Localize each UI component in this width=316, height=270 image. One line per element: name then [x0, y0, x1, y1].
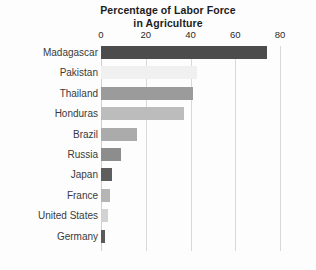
category-label-honduras: Honduras [0, 107, 98, 120]
bar-row: France [101, 189, 280, 209]
chart-title-line-1: Percentage of Labor Force [100, 4, 236, 16]
bar-thailand [101, 87, 193, 100]
bar-united-states [101, 209, 108, 222]
bar-row: Honduras [101, 107, 280, 127]
category-label-pakistan: Pakistan [0, 66, 98, 79]
gridline-80 [280, 46, 281, 251]
bar-row: United States [101, 209, 280, 229]
bar-row: Pakistan [101, 66, 280, 86]
chart-title: Percentage of Labor Force in Agriculture [60, 4, 276, 30]
category-label-thailand: Thailand [0, 87, 98, 100]
bar-france [101, 189, 110, 202]
bar-chart: Percentage of Labor Force in Agriculture… [0, 0, 316, 270]
x-tick-label-80: 80 [275, 29, 286, 40]
bar-honduras [101, 107, 184, 120]
category-label-madagascar: Madagascar [0, 46, 98, 59]
bar-row: Japan [101, 168, 280, 188]
bar-row: Thailand [101, 87, 280, 107]
bar-japan [101, 168, 112, 181]
category-label-germany: Germany [0, 230, 98, 243]
bar-germany [101, 230, 105, 243]
bar-madagascar [101, 46, 267, 59]
bar-row: Germany [101, 230, 280, 250]
plot-area: 020406080 MadagascarPakistanThailandHond… [101, 46, 280, 251]
bar-row: Brazil [101, 128, 280, 148]
category-label-russia: Russia [0, 148, 98, 161]
bar-row: Russia [101, 148, 280, 168]
x-tick-label-0: 0 [98, 29, 103, 40]
x-tick-label-40: 40 [185, 29, 196, 40]
x-tick-label-20: 20 [140, 29, 151, 40]
bar-brazil [101, 128, 137, 141]
x-tick-label-60: 60 [230, 29, 241, 40]
category-label-brazil: Brazil [0, 128, 98, 141]
category-label-united-states: United States [0, 209, 98, 222]
chart-title-line-2: in Agriculture [60, 17, 276, 30]
bar-russia [101, 148, 121, 161]
bar-row: Madagascar [101, 46, 280, 66]
category-label-france: France [0, 189, 98, 202]
bar-pakistan [101, 66, 197, 79]
category-label-japan: Japan [0, 168, 98, 181]
